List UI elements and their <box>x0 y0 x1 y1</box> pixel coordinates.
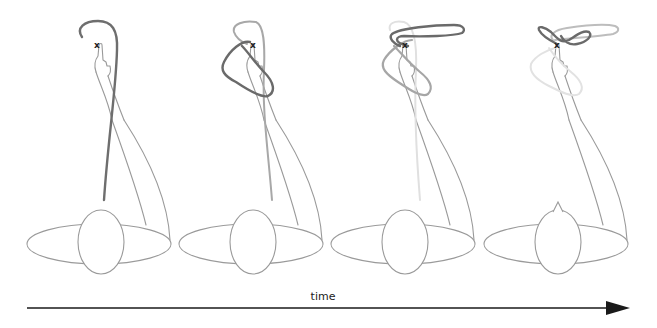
hand-trajectory-current <box>539 27 591 44</box>
hand-trajectory-oldest <box>531 48 582 95</box>
person-figure <box>484 44 628 275</box>
target-marker: x <box>250 40 256 50</box>
person-figure <box>179 44 323 275</box>
target-marker: x <box>554 40 560 50</box>
panel-4: x <box>484 25 628 274</box>
person-figure <box>27 44 171 275</box>
target-marker: x <box>402 40 408 50</box>
time-label: time <box>311 290 336 303</box>
panel-2: x <box>179 21 323 274</box>
reaching-diagram: x x x x time <box>0 0 657 328</box>
panel-1: x <box>27 21 171 274</box>
target-marker: x <box>94 40 100 50</box>
nose-icon <box>553 202 563 212</box>
panel-3: x <box>331 21 475 274</box>
arrow-head-icon <box>606 301 630 315</box>
time-axis: time <box>27 290 630 315</box>
person-figure <box>331 44 475 275</box>
